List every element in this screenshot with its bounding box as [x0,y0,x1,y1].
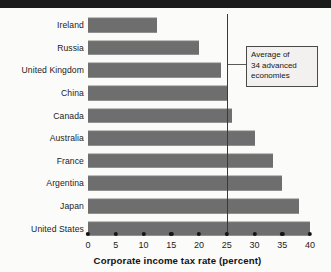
annotation-line-3: economies [251,71,313,82]
chart-row: Ireland [0,14,331,37]
bar-france [88,154,273,169]
x-axis-ticks: 0510152025303540 [0,232,331,242]
tick-dot-15 [169,232,173,236]
category-label-argentina: Argentina [0,178,84,188]
average-reference-line [227,14,228,236]
chart-figure: IrelandRussiaUnited KingdomChinaCanadaAu… [0,0,331,272]
bar-ireland [88,18,157,33]
tick-dot-25 [225,232,229,236]
tick-label-30: 30 [249,240,259,250]
chart-row: Australia [0,127,331,150]
x-axis-title: Corporate income tax rate (percent) [0,255,331,266]
annotation-line-2: 34 advanced [251,61,313,72]
category-label-china: China [0,88,84,98]
category-label-russia: Russia [0,43,84,53]
category-label-japan: Japan [0,201,84,211]
bar-united-kingdom [88,63,221,78]
tick-dot-5 [114,232,118,236]
bar-canada [88,108,232,123]
tick-dot-0 [86,232,90,236]
category-label-australia: Australia [0,133,84,143]
tick-dot-30 [252,232,256,236]
category-label-france: France [0,156,84,166]
tick-label-0: 0 [85,240,90,250]
tick-label-35: 35 [277,240,287,250]
tick-dot-20 [197,232,201,236]
tick-label-10: 10 [138,240,148,250]
tick-dot-35 [280,232,284,236]
bar-australia [88,131,255,146]
category-label-canada: Canada [0,111,84,121]
tick-dot-40 [308,232,312,236]
chart-row: France [0,150,331,173]
category-label-united-kingdom: United Kingdom [0,65,84,75]
bar-russia [88,41,199,56]
chart-row: Japan [0,195,331,218]
bar-china [88,86,227,101]
tick-label-20: 20 [194,240,204,250]
chart-row: Argentina [0,172,331,195]
tick-label-5: 5 [113,240,118,250]
bar-japan [88,199,299,214]
plot-area: IrelandRussiaUnited KingdomChinaCanadaAu… [0,8,331,272]
tick-dot-10 [141,232,145,236]
top-rule-divider [0,0,331,8]
tick-label-40: 40 [305,240,315,250]
annotation-leader-line [228,64,248,65]
category-label-ireland: Ireland [0,20,84,30]
annotation-box: Average of 34 advanced economies [246,46,318,87]
tick-label-15: 15 [166,240,176,250]
bar-argentina [88,176,282,191]
annotation-line-1: Average of [251,50,313,61]
tick-label-25: 25 [222,240,232,250]
chart-row: Canada [0,104,331,127]
